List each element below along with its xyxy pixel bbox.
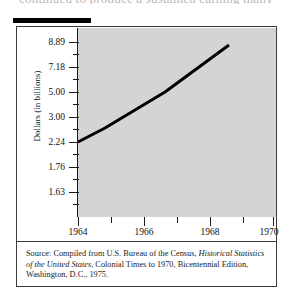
caption-line-2-italic: of the United States: [26, 260, 91, 269]
y-tick-major-8-89: [69, 42, 79, 43]
y-tick-minor-2: [73, 79, 79, 80]
caption-line-2: of the United States, Colonial Times to …: [26, 260, 267, 271]
y-tick-major-3-00: [69, 117, 79, 118]
x-tick-label-1966: 1966: [135, 227, 154, 237]
chart-area: Dollars (in billions) 8.89 7.18 5.00 3.0…: [17, 27, 276, 242]
y-tick-minor-4: [73, 129, 79, 130]
y-tick-label-2-24: 2.24: [48, 137, 65, 147]
x-axis-strip: 1964 1966 1968 1970: [17, 217, 276, 242]
y-tick-minor-3: [73, 104, 79, 105]
x-tick-minor-1969: [243, 217, 244, 223]
y-tick-minor-5: [73, 154, 79, 155]
x-tick-minor-1967: [177, 217, 178, 223]
y-tick-major-7-18: [69, 67, 79, 68]
y-tick-label-3-00: 3.00: [48, 112, 65, 122]
caption-line-3: Washington, D.C., 1975.: [26, 270, 267, 281]
x-tick-major-1968: [210, 217, 211, 226]
y-axis-label-gutter: Dollars (in billions) 8.89 7.18 5.00 3.0…: [17, 27, 77, 242]
caption-line-1: Source: Compiled from U.S. Bureau of the…: [26, 249, 267, 260]
y-tick-minor-1: [73, 54, 79, 55]
y-axis-title: Dollars (in billions): [32, 46, 42, 166]
y-tick-major-1-76: [69, 167, 79, 168]
figure-source-caption: Source: Compiled from U.S. Bureau of the…: [17, 242, 276, 286]
caption-line-1-text: Source: Compiled from U.S. Bureau of the…: [26, 249, 199, 258]
y-tick-label-8-89: 8.89: [48, 37, 65, 47]
x-tick-major-1970: [273, 217, 274, 226]
figure-container: Dollars (in billions) 8.89 7.18 5.00 3.0…: [16, 26, 277, 287]
y-axis-line: [77, 28, 78, 217]
caption-line-2-text: , Colonial Times to 1970, Bicentennial E…: [91, 260, 248, 269]
x-tick-label-1964: 1964: [69, 227, 88, 237]
x-tick-major-1964: [78, 217, 79, 226]
plot-background: [77, 28, 276, 217]
y-tick-minor-6: [73, 179, 79, 180]
x-tick-major-1966: [144, 217, 145, 226]
x-tick-minor-1965: [111, 217, 112, 223]
y-tick-major-2-24: [69, 142, 79, 143]
x-tick-label-1968: 1968: [201, 227, 220, 237]
cut-off-page-heading: continued to produce a sustained earning…: [0, 0, 292, 4]
y-tick-major-5-00: [69, 92, 79, 93]
section-rule: [13, 18, 91, 23]
y-tick-label-1-76: 1.76: [48, 162, 65, 172]
y-tick-label-7-18: 7.18: [48, 62, 65, 72]
y-tick-minor-7: [73, 204, 79, 205]
x-tick-label-1970: 1970: [260, 227, 279, 237]
y-tick-major-1-63: [69, 192, 79, 193]
y-tick-label-5-00: 5.00: [48, 87, 65, 97]
caption-line-1-italic: Historical Statistics: [199, 249, 265, 258]
y-tick-label-1-63: 1.63: [48, 187, 65, 197]
